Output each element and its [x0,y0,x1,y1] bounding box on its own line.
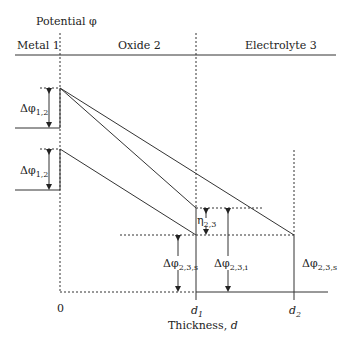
y-axis-title: Potential φ [36,16,97,27]
region-metal: Metal 1 [17,40,60,51]
label-dphi23i: Δφ2,3,i [214,258,247,272]
label-dphi23s-right: Δφ2,3,s [302,258,337,272]
potential-diagram: Potential φ Metal 1 Oxide 2 Electrolyte … [0,0,351,344]
x-axis-title: Thickness, d [168,320,238,331]
region-oxide: Oxide 2 [118,40,161,51]
label-dphi23s-left: Δφ2,3,s [163,258,198,272]
potential-line-upper [60,88,294,235]
label-dphi12-top: Δφ1,2 [20,103,48,117]
potential-line-middle [60,88,196,208]
label-eta23: η2,3 [197,215,216,229]
d1-label: d1 [191,305,203,319]
label-dphi12-bottom: Δφ1,2 [20,165,48,179]
d2-label: d2 [289,305,301,319]
region-electrolyte: Electrolyte 3 [245,40,317,51]
origin-label: 0 [57,303,64,314]
potential-line-lower [60,149,196,235]
